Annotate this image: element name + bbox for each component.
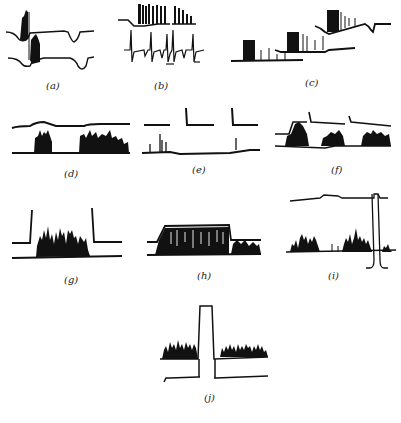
panel-j: (j) [140, 300, 280, 423]
panel-label-c: (c) [305, 77, 318, 88]
trace-e [130, 100, 270, 200]
panel-label-d: (d) [64, 168, 78, 179]
panel-c: (c) [225, 0, 401, 100]
panel-d: (d) [0, 100, 140, 200]
trace-g [0, 200, 140, 310]
panel-e: (e) [130, 100, 270, 200]
panel-b: (b) [110, 0, 230, 100]
panel-label-g: (g) [64, 274, 78, 285]
trace-b [110, 0, 230, 100]
panel-label-h: (h) [197, 270, 211, 281]
trace-j [140, 300, 280, 423]
panel-label-b: (b) [154, 80, 168, 91]
trace-i [270, 180, 401, 310]
panel-label-e: (e) [192, 164, 206, 175]
panel-label-i: (i) [328, 270, 339, 281]
panel-g: (g) [0, 200, 140, 310]
panel-i: (i) [270, 180, 401, 310]
panel-label-f: (f) [331, 164, 343, 175]
trace-d [0, 100, 140, 200]
panel-label-j: (j) [204, 392, 215, 403]
panel-h: (h) [135, 200, 275, 310]
trace-h [135, 200, 275, 310]
panel-label-a: (a) [46, 80, 60, 91]
